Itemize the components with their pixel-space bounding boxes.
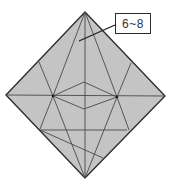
crease-node-right	[116, 96, 119, 99]
crease-node-left	[52, 95, 55, 98]
step-callout-label: 6~8	[115, 13, 151, 34]
